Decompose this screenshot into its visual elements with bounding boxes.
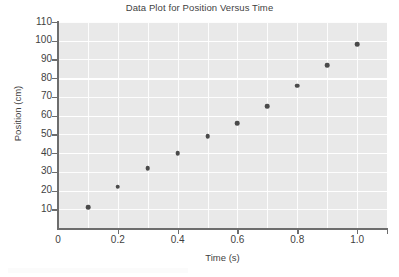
scatter-chart-figure: Data Plot for Position Versus Time 10203… bbox=[0, 0, 399, 277]
gridline-vertical bbox=[178, 22, 179, 228]
y-tick-mark bbox=[52, 59, 58, 60]
x-tick-mark bbox=[118, 228, 119, 234]
y-tick-label: 30 bbox=[6, 165, 52, 176]
caption-strip bbox=[8, 268, 188, 273]
y-tick-mark bbox=[52, 22, 58, 23]
y-tick-mark bbox=[52, 78, 58, 79]
plot-area bbox=[58, 22, 387, 228]
y-tick-label: 90 bbox=[6, 53, 52, 64]
x-tick-mark bbox=[237, 228, 238, 234]
x-axis-title: Time (s) bbox=[58, 252, 387, 263]
gridline-horizontal bbox=[58, 191, 387, 192]
gridline-vertical bbox=[327, 22, 328, 228]
y-tick-label: 10 bbox=[6, 203, 52, 214]
data-point bbox=[116, 185, 121, 190]
x-axis-line bbox=[57, 228, 388, 230]
gridline-vertical bbox=[208, 22, 209, 228]
data-point bbox=[205, 134, 210, 139]
gridline-horizontal bbox=[58, 78, 387, 79]
data-point bbox=[325, 63, 330, 68]
data-point bbox=[145, 166, 150, 171]
gridline-horizontal bbox=[58, 209, 387, 210]
gridline-vertical bbox=[357, 22, 358, 228]
gridline-vertical bbox=[267, 22, 268, 228]
y-tick-mark bbox=[52, 116, 58, 117]
gridline-horizontal bbox=[58, 97, 387, 98]
gridline-vertical bbox=[148, 22, 149, 228]
y-tick-mark bbox=[52, 209, 58, 210]
data-point bbox=[86, 205, 91, 210]
x-tick-label: 0.8 bbox=[277, 234, 317, 245]
y-tick-mark bbox=[52, 134, 58, 135]
data-point bbox=[355, 42, 360, 47]
gridline-vertical bbox=[297, 22, 298, 228]
gridline-vertical bbox=[118, 22, 119, 228]
data-point bbox=[235, 121, 240, 126]
y-tick-mark bbox=[52, 41, 58, 42]
y-tick-mark bbox=[52, 153, 58, 154]
y-tick-label: 110 bbox=[6, 16, 52, 27]
x-tick-mark bbox=[357, 228, 358, 234]
y-tick-label: 100 bbox=[6, 34, 52, 45]
gridline-vertical bbox=[88, 22, 89, 228]
x-tick-label: 0.4 bbox=[158, 234, 198, 245]
data-point bbox=[295, 83, 300, 88]
x-tick-label: 0.2 bbox=[98, 234, 138, 245]
gridline-horizontal bbox=[58, 172, 387, 173]
x-tick-mark bbox=[178, 228, 179, 234]
x-tick-label: 0.6 bbox=[217, 234, 257, 245]
y-tick-mark bbox=[52, 172, 58, 173]
y-axis-title: Position (cm) bbox=[12, 69, 23, 159]
gridline-horizontal bbox=[58, 59, 387, 60]
chart-title: Data Plot for Position Versus Time bbox=[0, 2, 399, 13]
gridline-horizontal bbox=[58, 22, 387, 23]
y-tick-label: 20 bbox=[6, 184, 52, 195]
gridline-horizontal bbox=[58, 116, 387, 117]
gridline-horizontal bbox=[58, 41, 387, 42]
x-tick-label: 0 bbox=[38, 234, 78, 245]
y-tick-mark bbox=[52, 97, 58, 98]
data-point bbox=[175, 151, 180, 156]
y-axis-line bbox=[57, 21, 59, 229]
x-tick-mark bbox=[387, 228, 388, 234]
gridline-horizontal bbox=[58, 153, 387, 154]
gridline-horizontal bbox=[58, 134, 387, 135]
x-tick-label: 1.0 bbox=[337, 234, 377, 245]
data-point bbox=[265, 104, 270, 109]
x-tick-mark bbox=[297, 228, 298, 234]
y-tick-mark bbox=[52, 191, 58, 192]
